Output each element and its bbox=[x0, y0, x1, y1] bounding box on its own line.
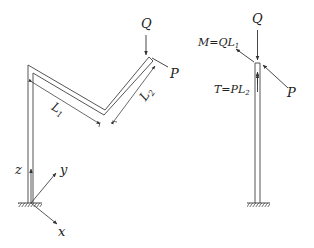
right-ground-support bbox=[247, 203, 270, 207]
diagram-canvas: Q P L1 L2 z y x Q P M=QL1 T=PL2 bbox=[0, 0, 314, 248]
load-P-arrow bbox=[152, 58, 168, 67]
load-P-arrow-right bbox=[263, 65, 288, 88]
label-Q: Q bbox=[141, 16, 152, 31]
label-x: x bbox=[58, 224, 66, 239]
left-frame bbox=[28, 57, 153, 203]
label-Q-right: Q bbox=[252, 11, 263, 26]
label-z: z bbox=[14, 162, 22, 177]
x-axis bbox=[31, 203, 57, 224]
diagram-svg: Q P L1 L2 z y x Q P M=QL1 T=PL2 bbox=[0, 0, 314, 248]
dimension-L1 bbox=[32, 82, 100, 127]
frame-inner-edge bbox=[33, 61, 153, 203]
label-y: y bbox=[59, 162, 68, 177]
moment-M-arrow bbox=[236, 49, 254, 62]
label-P-right: P bbox=[286, 85, 296, 100]
axes bbox=[31, 169, 57, 224]
frame-outer-edge bbox=[28, 57, 149, 203]
y-axis bbox=[31, 173, 56, 203]
label-P: P bbox=[169, 66, 179, 81]
label-T: T=PL2 bbox=[214, 83, 250, 97]
left-ground-support bbox=[18, 203, 42, 207]
label-M: M=QL1 bbox=[197, 36, 239, 50]
